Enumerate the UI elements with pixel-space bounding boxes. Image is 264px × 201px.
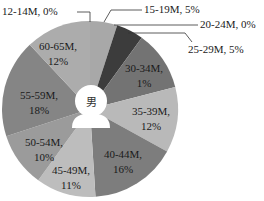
age-distribution-pie-chart: 12-14M, 0% 15-19M, 5% 20-24M, 0% 25-29M,… [0, 0, 264, 201]
person-silhouette-icon [0, 0, 264, 201]
center-gender-label: 男 [86, 93, 97, 109]
